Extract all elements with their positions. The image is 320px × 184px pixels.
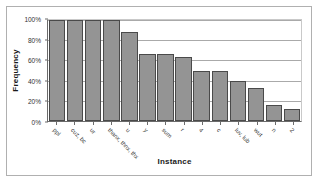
bar	[103, 20, 119, 121]
y-axis-tick-label: 100%	[24, 16, 41, 23]
plot-area	[47, 19, 302, 122]
y-axis-tick-label: 60%	[28, 57, 41, 64]
bar	[248, 88, 264, 121]
bar-series	[48, 20, 301, 121]
x-axis-title: Instance	[47, 157, 302, 166]
x-axis-tick-label: c	[216, 127, 222, 133]
y-axis-tick-label: 80%	[28, 36, 41, 43]
x-axis-tick-label: ppl	[52, 127, 62, 137]
bar	[230, 81, 246, 121]
bar	[266, 105, 282, 121]
bar	[157, 54, 173, 121]
x-axis-tick-label: r	[179, 127, 185, 133]
x-axis-tick-label: sum	[161, 127, 173, 139]
x-axis-tick-label: 2	[289, 127, 296, 134]
bar	[67, 20, 83, 121]
x-axis-tick-label: 4	[198, 127, 205, 134]
bar	[193, 71, 209, 122]
bar	[49, 20, 65, 121]
bar	[121, 32, 137, 121]
bar	[85, 20, 101, 121]
x-axis-tick-label: ur	[88, 127, 96, 135]
bar	[175, 57, 191, 121]
y-axis-tick-label: 20%	[28, 98, 41, 105]
x-axis-tick-label: n	[270, 127, 277, 134]
y-axis-tick-label: 40%	[28, 77, 41, 84]
bar	[139, 54, 155, 121]
y-axis-tick-labels: 0%20%40%60%80%100%	[7, 19, 45, 122]
x-axis-tick-label: wut	[252, 127, 263, 138]
chart-figure: Frequency 0%20%40%60%80%100% pplcuz, bcu…	[6, 6, 312, 176]
x-axis-tick-label: y	[143, 127, 149, 133]
bar	[284, 109, 300, 121]
y-axis-tick-label: 0%	[32, 119, 41, 126]
bar	[212, 71, 228, 122]
x-axis-tick-label: u	[125, 127, 132, 134]
